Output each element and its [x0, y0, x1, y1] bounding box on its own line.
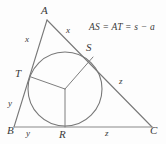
segment-label-z-on-bc: z — [105, 129, 109, 138]
vertex-label-b: B — [7, 125, 14, 136]
vertex-label-c: C — [150, 125, 157, 136]
formula-annotation: AS = AT = s − a — [89, 22, 155, 32]
geometry-figure: A B C T S R x x y y z z AS = AT = s − a — [0, 0, 166, 144]
tangency-label-r: R — [59, 129, 66, 140]
tangency-label-s: S — [86, 42, 92, 53]
segment-label-z-on-ac: z — [119, 77, 123, 86]
vertex-label-a: A — [41, 5, 48, 16]
segment-label-y-on-bc: y — [26, 129, 30, 138]
segment-label-x-on-ac: x — [66, 26, 70, 35]
segment-label-y-on-ab: y — [8, 99, 12, 108]
radius-to-s-line — [65, 57, 93, 89]
radius-to-t-line — [31, 77, 65, 89]
side-ac-line — [47, 20, 152, 127]
segment-label-x-on-ab: x — [25, 35, 29, 44]
tangency-label-t: T — [15, 68, 21, 79]
